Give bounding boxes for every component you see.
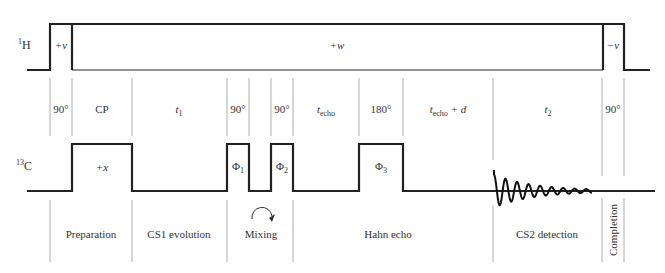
- circular-arrow-icon: [252, 207, 275, 222]
- pulse-label-plus-w: +w: [330, 39, 345, 51]
- pulse-label-phi3: Φ3: [375, 160, 387, 175]
- interval-label: t2: [544, 103, 551, 118]
- interval-label: 90°: [274, 103, 289, 115]
- interval-label: 90°: [230, 103, 245, 115]
- pulse-label-plus-x: +x: [96, 161, 108, 173]
- carbon-channel-label: 13C: [16, 158, 32, 173]
- interval-label: techo + d: [430, 103, 467, 118]
- stage-label-mixing: Mixing: [245, 228, 278, 240]
- interval-label: t1: [175, 103, 182, 118]
- pulse-label-plus-v: +v: [55, 39, 67, 51]
- pulse-sequence-diagram: 1H 13C +v +w −v +x Φ1 Φ2 Φ3 90° CP t1 90…: [0, 0, 665, 273]
- stage-label-cs1-evolution: CS1 evolution: [147, 228, 211, 240]
- interval-dividers: [50, 78, 624, 176]
- interval-label: 90°: [53, 103, 68, 115]
- stage-label-hahn-echo: Hahn echo: [364, 228, 412, 240]
- fid-signal: [494, 170, 592, 205]
- stage-label-cs2-detection: CS2 detection: [516, 228, 579, 240]
- proton-channel-label: 1H: [18, 37, 31, 52]
- pulse-label-phi1: Φ1: [232, 160, 244, 175]
- interval-label: techo: [317, 103, 335, 118]
- interval-label: 90°: [605, 103, 620, 115]
- interval-label: CP: [95, 103, 108, 115]
- pulse-label-phi2: Φ2: [276, 160, 288, 175]
- stage-labels: Preparation CS1 evolution Mixing Hahn ec…: [66, 204, 619, 256]
- stage-label-completion: Completion: [607, 204, 619, 256]
- pulse-label-minus-v: −v: [607, 39, 619, 51]
- stage-label-preparation: Preparation: [66, 228, 117, 240]
- carbon-pulse-train: [27, 144, 655, 191]
- interval-labels: 90° CP t1 90° 90° techo 180° techo + d t…: [53, 103, 620, 118]
- interval-label: 180°: [371, 103, 392, 115]
